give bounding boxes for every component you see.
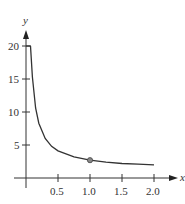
y-tick-label: 5 — [14, 140, 20, 151]
x-tick-label: 2.0 — [146, 186, 160, 197]
y-tick-label: 15 — [8, 74, 19, 85]
curve-line — [31, 46, 155, 165]
x-axis-label: x — [180, 172, 185, 183]
y-axis-arrow-icon — [23, 30, 29, 39]
x-tick-label: 1.5 — [114, 186, 128, 197]
chart-canvas — [0, 0, 185, 204]
y-tick-label: 20 — [8, 41, 19, 52]
y-axis-label: y — [23, 15, 28, 26]
y-tick-label: 10 — [8, 107, 19, 118]
x-tick-label: 1.0 — [82, 186, 96, 197]
x-axis-arrow-icon — [169, 175, 178, 181]
x-tick-label: 0.5 — [50, 186, 64, 197]
highlight-point — [87, 158, 92, 163]
